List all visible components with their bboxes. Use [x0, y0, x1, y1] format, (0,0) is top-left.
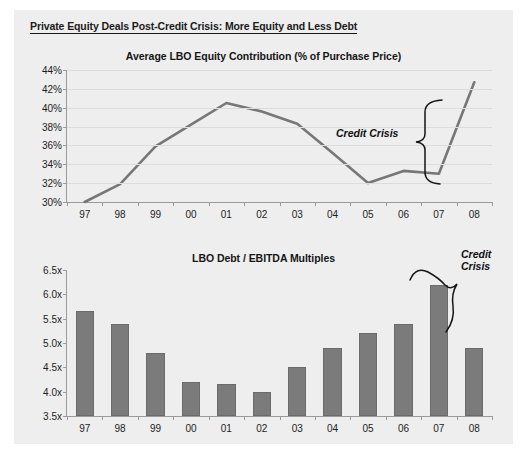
- x-axis-tick-mark: [280, 202, 281, 206]
- x-axis-tick-label: 00: [185, 423, 196, 434]
- x-axis-tick-label: 98: [115, 423, 126, 434]
- gridline: [67, 89, 492, 90]
- y-axis-tick-mark: [63, 367, 67, 368]
- x-axis-tick-mark: [67, 416, 68, 420]
- x-axis-tick-label: 02: [256, 423, 267, 434]
- x-axis-tick-mark: [492, 202, 493, 206]
- x-axis-tick-mark: [244, 416, 245, 420]
- bar-03: [288, 367, 306, 416]
- y-axis-tick-label: 38%: [42, 121, 62, 132]
- bar-02: [253, 392, 271, 416]
- x-axis-tick-label: 02: [256, 209, 267, 220]
- bar-04: [323, 348, 341, 416]
- x-axis-tick-label: 05: [362, 209, 373, 220]
- x-axis-tick-label: 97: [79, 209, 90, 220]
- x-axis-tick-mark: [386, 416, 387, 420]
- chart-panel-debt-ebitda: LBO Debt / EBITDA Multiples 3.5x4.0x4.5x…: [14, 246, 513, 442]
- x-axis-tick-label: 04: [327, 209, 338, 220]
- x-axis-tick-mark: [102, 202, 103, 206]
- chart-title-equity-contribution: Average LBO Equity Contribution (% of Pu…: [14, 50, 513, 62]
- x-axis-tick-label: 99: [150, 209, 161, 220]
- annotation-brace-line: [412, 96, 454, 186]
- y-axis-tick-label: 36%: [42, 140, 62, 151]
- x-axis-tick-label: 06: [398, 423, 409, 434]
- y-axis-tick-label: 34%: [42, 159, 62, 170]
- x-axis-tick-mark: [421, 416, 422, 420]
- x-axis-tick-mark: [173, 202, 174, 206]
- x-axis-tick-label: 98: [115, 209, 126, 220]
- x-axis-tick-label: 00: [185, 209, 196, 220]
- annotation-brace-bar: [406, 254, 466, 338]
- x-axis-tick-label: 05: [362, 423, 373, 434]
- x-axis-tick-mark: [138, 416, 139, 420]
- x-axis-tick-label: 03: [292, 209, 303, 220]
- y-axis-tick-label: 4.5x: [43, 362, 62, 373]
- gridline: [67, 70, 492, 71]
- x-axis-tick-label: 07: [433, 423, 444, 434]
- bar-99: [146, 353, 164, 416]
- x-axis-tick-mark: [173, 416, 174, 420]
- x-axis-tick-mark: [421, 202, 422, 206]
- y-axis-tick-label: 4.0x: [43, 386, 62, 397]
- bar-05: [359, 333, 377, 416]
- y-axis-tick-label: 5.5x: [43, 313, 62, 324]
- y-axis-tick-mark: [63, 294, 67, 295]
- x-axis-tick-mark: [350, 202, 351, 206]
- y-axis-tick-label: 5.0x: [43, 338, 62, 349]
- bar-08: [465, 348, 483, 416]
- y-axis-tick-label: 32%: [42, 178, 62, 189]
- x-axis-tick-label: 03: [292, 423, 303, 434]
- x-axis-tick-label: 01: [221, 423, 232, 434]
- page-title: Private Equity Deals Post-Credit Crisis:…: [30, 20, 357, 34]
- y-axis-tick-label: 42%: [42, 83, 62, 94]
- y-axis-tick-label: 40%: [42, 102, 62, 113]
- x-axis-tick-label: 01: [221, 209, 232, 220]
- x-axis-tick-label: 99: [150, 423, 161, 434]
- y-axis-tick-label: 6.5x: [43, 265, 62, 276]
- bar-97: [76, 311, 94, 416]
- x-axis-tick-mark: [67, 202, 68, 206]
- y-axis-tick-mark: [63, 343, 67, 344]
- y-axis-tick-label: 44%: [42, 65, 62, 76]
- y-axis-tick-mark: [63, 319, 67, 320]
- x-axis-tick-mark: [492, 416, 493, 420]
- y-axis-tick-label: 3.5x: [43, 411, 62, 422]
- x-axis-tick-mark: [280, 416, 281, 420]
- y-axis-tick-mark: [63, 270, 67, 271]
- x-axis-tick-mark: [102, 416, 103, 420]
- x-axis-tick-mark: [209, 416, 210, 420]
- x-axis-tick-mark: [457, 202, 458, 206]
- bar-98: [111, 324, 129, 416]
- x-axis-tick-mark: [315, 416, 316, 420]
- x-axis-tick-mark: [244, 202, 245, 206]
- x-axis-tick-label: 08: [469, 209, 480, 220]
- bar-01: [217, 384, 235, 416]
- annotation-label-credit-crisis-line: Credit Crisis: [336, 127, 398, 139]
- x-axis-tick-mark: [138, 202, 139, 206]
- x-axis-tick-mark: [457, 416, 458, 420]
- x-axis-tick-label: 06: [398, 209, 409, 220]
- x-axis-tick-label: 04: [327, 423, 338, 434]
- x-axis-tick-label: 07: [433, 209, 444, 220]
- chart-panel-equity-contribution: Average LBO Equity Contribution (% of Pu…: [14, 48, 513, 228]
- y-axis-tick-mark: [63, 392, 67, 393]
- x-axis-tick-label: 08: [469, 423, 480, 434]
- y-axis-tick-label: 30%: [42, 197, 62, 208]
- x-axis-tick-mark: [315, 202, 316, 206]
- y-axis-tick-label: 6.0x: [43, 289, 62, 300]
- x-axis-tick-mark: [350, 416, 351, 420]
- bar-00: [182, 382, 200, 416]
- x-axis-tick-mark: [386, 202, 387, 206]
- slide-canvas: Private Equity Deals Post-Credit Crisis:…: [14, 10, 513, 444]
- x-axis-tick-label: 97: [79, 423, 90, 434]
- x-axis-tick-mark: [209, 202, 210, 206]
